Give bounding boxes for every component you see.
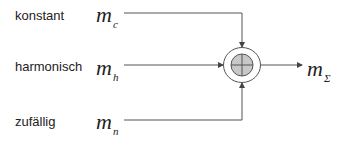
signal-sum-diagram: konstant harmonisch zufällig mc mh mn mΣ: [0, 0, 345, 141]
diagram-lines: [0, 0, 345, 141]
line-constant: [124, 13, 242, 47]
line-random: [124, 83, 242, 120]
